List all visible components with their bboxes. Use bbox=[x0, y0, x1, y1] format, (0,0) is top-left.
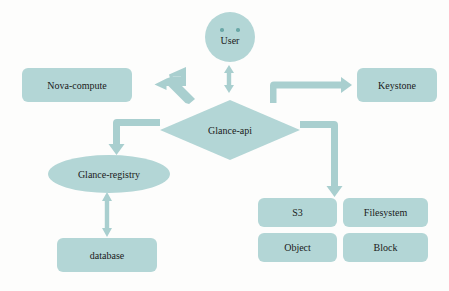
node-glance-api[interactable]: Glance-api bbox=[160, 100, 300, 160]
user-eye-left-icon bbox=[220, 28, 224, 32]
node-database-label: database bbox=[90, 250, 124, 261]
connector-glance-api-to-glance-registry bbox=[109, 119, 161, 155]
node-object[interactable]: Object bbox=[258, 233, 337, 262]
node-keystone[interactable]: Keystone bbox=[357, 68, 437, 102]
node-s3[interactable]: S3 bbox=[258, 198, 337, 227]
connector-glance-api-to-stores bbox=[300, 121, 343, 197]
node-database[interactable]: database bbox=[57, 238, 157, 272]
connector-user-to-glance-api bbox=[224, 65, 234, 93]
node-s3-label: S3 bbox=[292, 207, 303, 218]
diagram-canvas: User Nova-compute Keystone Glance-api Gl… bbox=[0, 0, 449, 291]
node-block-label: Block bbox=[374, 242, 398, 253]
node-glance-registry-label: Glance-registry bbox=[78, 169, 140, 180]
node-block[interactable]: Block bbox=[343, 233, 428, 262]
node-glance-registry[interactable]: Glance-registry bbox=[48, 155, 170, 193]
node-glance-api-label: Glance-api bbox=[208, 125, 252, 136]
node-nova-compute[interactable]: Nova-compute bbox=[22, 68, 132, 102]
node-filesystem-label: Filesystem bbox=[364, 207, 407, 218]
connector-glance-api-to-nova-compute bbox=[155, 67, 196, 104]
connector-glance-registry-to-database bbox=[102, 192, 112, 237]
node-object-label: Object bbox=[284, 242, 311, 253]
node-filesystem[interactable]: Filesystem bbox=[343, 198, 428, 227]
node-user-label: User bbox=[205, 35, 255, 46]
node-keystone-label: Keystone bbox=[378, 80, 416, 91]
node-nova-compute-label: Nova-compute bbox=[47, 80, 106, 91]
user-eye-right-icon bbox=[236, 28, 240, 32]
node-user[interactable]: User bbox=[205, 12, 255, 62]
